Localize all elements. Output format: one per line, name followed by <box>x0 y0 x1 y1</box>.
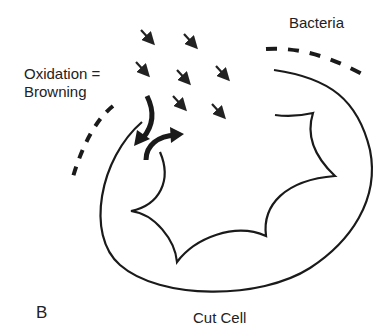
arrow-icon <box>141 30 152 42</box>
bacteria-label: Bacteria <box>289 14 344 32</box>
oxidation-label: Oxidation = Browning <box>24 65 100 101</box>
thick-arrows <box>134 96 184 160</box>
left-dashed-barrier <box>71 106 113 184</box>
inward-arrow-icon <box>143 96 152 138</box>
arrow-icon <box>136 62 147 74</box>
panel-label: B <box>36 304 47 322</box>
arrow-icon <box>173 96 184 108</box>
oxidation-label-line2: Browning <box>24 83 100 101</box>
cut-cell-label: Cut Cell <box>193 309 246 327</box>
outward-arrowhead-icon <box>170 127 184 143</box>
cut-cell-diagram <box>0 0 390 335</box>
arrow-icon <box>177 70 188 82</box>
arrow-icon <box>212 104 223 116</box>
outer-cell-wall <box>100 70 371 292</box>
oxidation-label-line1: Oxidation = <box>24 65 100 83</box>
arrow-icon <box>216 66 227 78</box>
arrow-icon <box>184 34 195 46</box>
